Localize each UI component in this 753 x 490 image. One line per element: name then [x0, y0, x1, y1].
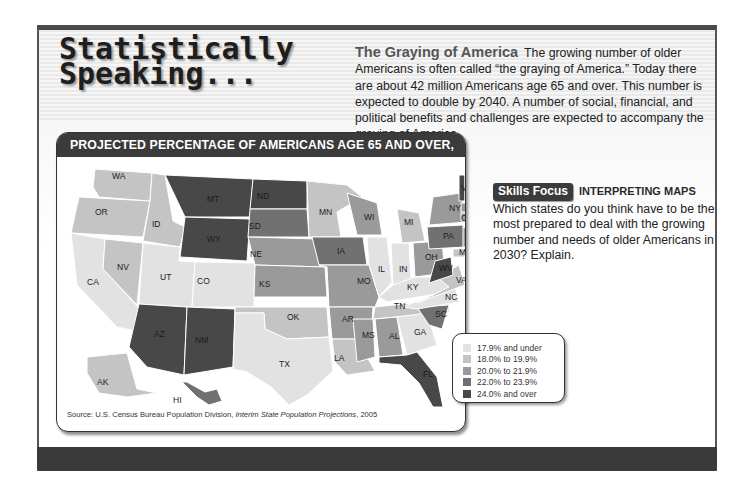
state-label-ok: OK: [287, 312, 300, 322]
map-source: Source: U.S. Census Bureau Population Di…: [67, 410, 377, 419]
us-choropleth-map: WAORCANVIDMTWYUTCOAZNMNDSDNEKSOKTXMNIAMO…: [57, 157, 466, 407]
legend-swatch: [463, 355, 471, 363]
state-mo: [319, 265, 379, 307]
state-label-ut: UT: [160, 272, 171, 282]
legend-item: 24.0% and over: [463, 388, 564, 400]
state-label-wy: WY: [207, 234, 221, 244]
state-label-la: LA: [334, 353, 345, 363]
state-az: [129, 304, 187, 375]
state-label-hi: HI: [173, 395, 182, 405]
page-title: Statistically Speaking...: [59, 36, 294, 86]
state-label-mt: MT: [207, 194, 219, 204]
state-fl: [379, 352, 443, 407]
skills-focus-box: Skills Focus INTERPRETING MAPS Which sta…: [493, 183, 728, 264]
state-label-ks: KS: [259, 279, 271, 289]
state-hi: [182, 382, 222, 405]
state-label-ga: GA: [414, 327, 427, 337]
intro-heading: The Graying of America: [355, 44, 518, 60]
state-label-nc: NC: [445, 292, 457, 302]
state-label-mn: MN: [319, 207, 332, 217]
state-label-az: AZ: [154, 329, 165, 339]
state-label-ca: CA: [87, 277, 99, 287]
state-or: [71, 197, 150, 237]
legend-swatch: [463, 367, 471, 375]
state-label-id: ID: [152, 219, 161, 229]
state-label-vt: VT: [461, 183, 466, 193]
state-label-ne: NE: [250, 249, 262, 259]
skills-focus-badge: Skills Focus: [493, 183, 573, 201]
state-nh: [465, 175, 466, 202]
legend-swatch: [463, 344, 471, 352]
state-label-sd: SD: [249, 221, 261, 231]
state-label-sc: SC: [435, 309, 447, 319]
source-title: Interim State Population Projections: [235, 410, 356, 419]
state-label-mo: MO: [357, 276, 371, 286]
state-label-al: AL: [389, 331, 400, 341]
map-card: PROJECTED PERCENTAGE OF AMERICANS AGE 65…: [56, 132, 466, 432]
state-label-va: VA: [456, 275, 466, 285]
state-label-ms: MS: [362, 330, 375, 340]
state-label-co: CO: [197, 276, 210, 286]
state-label-nd: ND: [257, 191, 269, 201]
state-label-wa: WA: [112, 171, 126, 181]
state-label-or: OR: [95, 207, 108, 217]
intro-body: The growing number of older Americans is…: [355, 46, 704, 141]
state-label-ky: KY: [407, 282, 419, 292]
state-label-pa: PA: [443, 231, 454, 241]
state-label-tn: TN: [394, 301, 405, 311]
legend-item: 18.0% to 19.9%: [463, 354, 564, 366]
state-label-wi: WI: [364, 212, 374, 222]
state-label-de: DE: [465, 255, 466, 265]
map-legend: 17.9% and under 18.0% to 19.9% 20.0% to …: [452, 333, 565, 403]
legend-item: 22.0% to 23.9%: [463, 377, 564, 389]
skills-focus-title: INTERPRETING MAPS: [579, 184, 696, 200]
legend-item: 20.0% to 21.9%: [463, 365, 564, 377]
legend-swatch: [463, 390, 471, 398]
state-label-nj: NJ: [465, 237, 466, 247]
state-ms: [353, 319, 375, 362]
skills-focus-question: Which states do you think have to be the…: [493, 202, 728, 264]
state-label-nv: NV: [117, 262, 129, 272]
legend-swatch: [463, 378, 471, 386]
state-label-oh: OH: [425, 252, 438, 262]
map-title: PROJECTED PERCENTAGE OF AMERICANS AGE 65…: [57, 133, 465, 157]
state-ma: [461, 203, 466, 212]
state-label-ia: IA: [337, 246, 345, 256]
state-nm: [184, 307, 235, 375]
state-label-tx: TX: [279, 359, 290, 369]
state-label-in: IN: [399, 264, 408, 274]
state-label-nm: NM: [195, 335, 208, 345]
state-label-ar: AR: [342, 314, 354, 324]
state-label-ct: CT: [461, 213, 466, 223]
state-label-ny: NY: [449, 203, 461, 213]
state-label-il: IL: [378, 264, 385, 274]
intro-paragraph: The Graying of AmericaThe growing number…: [355, 44, 715, 143]
state-label-wv: WV: [439, 263, 453, 273]
bottom-bar: [37, 447, 717, 471]
state-label-ak: AK: [97, 377, 109, 387]
state-label-fl: FL: [423, 369, 433, 379]
state-de: [465, 251, 466, 259]
state-label-mi: MI: [404, 217, 413, 227]
legend-item: 17.9% and under: [463, 342, 564, 354]
